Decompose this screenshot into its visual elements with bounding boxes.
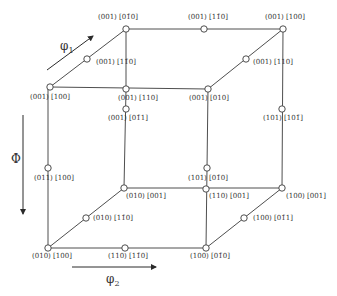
orientation-node-label: (010) [11̄0] xyxy=(93,214,133,222)
orientation-node-marker xyxy=(45,165,51,171)
orientation-node-marker xyxy=(47,84,53,90)
Phi-axis-label: Φ xyxy=(11,152,21,166)
orientation-node-marker xyxy=(279,106,285,112)
orientation-node-marker xyxy=(83,215,89,221)
orientation-node-label: (001) [11̄0] xyxy=(188,13,228,21)
orientation-node-label: (100) [01̄0] xyxy=(190,252,230,260)
orientation-node-marker xyxy=(123,86,129,92)
orientation-node-marker xyxy=(280,26,286,32)
orientation-node-label: (010) [001] xyxy=(126,192,166,200)
orientation-node-label: (001) [110] xyxy=(253,58,293,66)
phi2-axis-label: φ2 xyxy=(106,272,120,288)
orientation-node-label: (110) [11̄0] xyxy=(108,252,148,260)
orientation-node-label: (001) [11̄0] xyxy=(96,58,136,66)
orientation-node-label: (011) [100] xyxy=(34,174,74,182)
orientation-node-label: (001) [100] xyxy=(265,13,305,21)
orientation-node-marker xyxy=(45,245,51,251)
orientation-node-marker xyxy=(84,56,90,62)
orientation-node-marker xyxy=(279,185,285,191)
orientation-node-label: (110) [001] xyxy=(209,192,249,200)
cube-edge xyxy=(124,89,126,188)
orientation-node-label: (001) [01̄1] xyxy=(108,114,148,122)
orientation-node-marker xyxy=(205,86,211,92)
orientation-node-marker xyxy=(203,245,209,251)
euler-space-cube-diagram: φ1Φφ2 (001) [01̄0](001) [11̄0](001) [100… xyxy=(0,0,337,296)
orientation-node-label: (001) [100] xyxy=(30,93,70,101)
orientation-node-label: (001) [010] xyxy=(189,94,229,102)
orientation-node-marker xyxy=(123,106,129,112)
orientation-node-label: (001) [110] xyxy=(118,94,158,102)
diagram-svg: φ1Φφ2 (001) [01̄0](001) [11̄0](001) [100… xyxy=(0,0,337,296)
orientation-node-label: (001) [01̄0] xyxy=(98,13,138,21)
orientation-node-label: (100) [001] xyxy=(286,192,326,200)
phi1-axis-label: φ1 xyxy=(60,39,74,55)
orientation-node-marker xyxy=(123,26,129,32)
orientation-node-marker xyxy=(204,165,210,171)
orientation-node-label: (101) [01̄0] xyxy=(188,174,228,182)
orientation-node-label: (101) [101̄] xyxy=(263,114,303,122)
orientation-node-marker xyxy=(201,26,207,32)
orientation-node-marker xyxy=(241,215,247,221)
orientation-node-label: (010) [100] xyxy=(32,252,72,260)
orientation-node-label: (100) [01̄1] xyxy=(253,214,293,222)
orientation-node-marker xyxy=(121,185,127,191)
orientation-node-marker xyxy=(122,245,128,251)
euler-angle-axes: φ1Φφ2 xyxy=(11,36,156,288)
orientation-node-marker xyxy=(243,56,249,62)
